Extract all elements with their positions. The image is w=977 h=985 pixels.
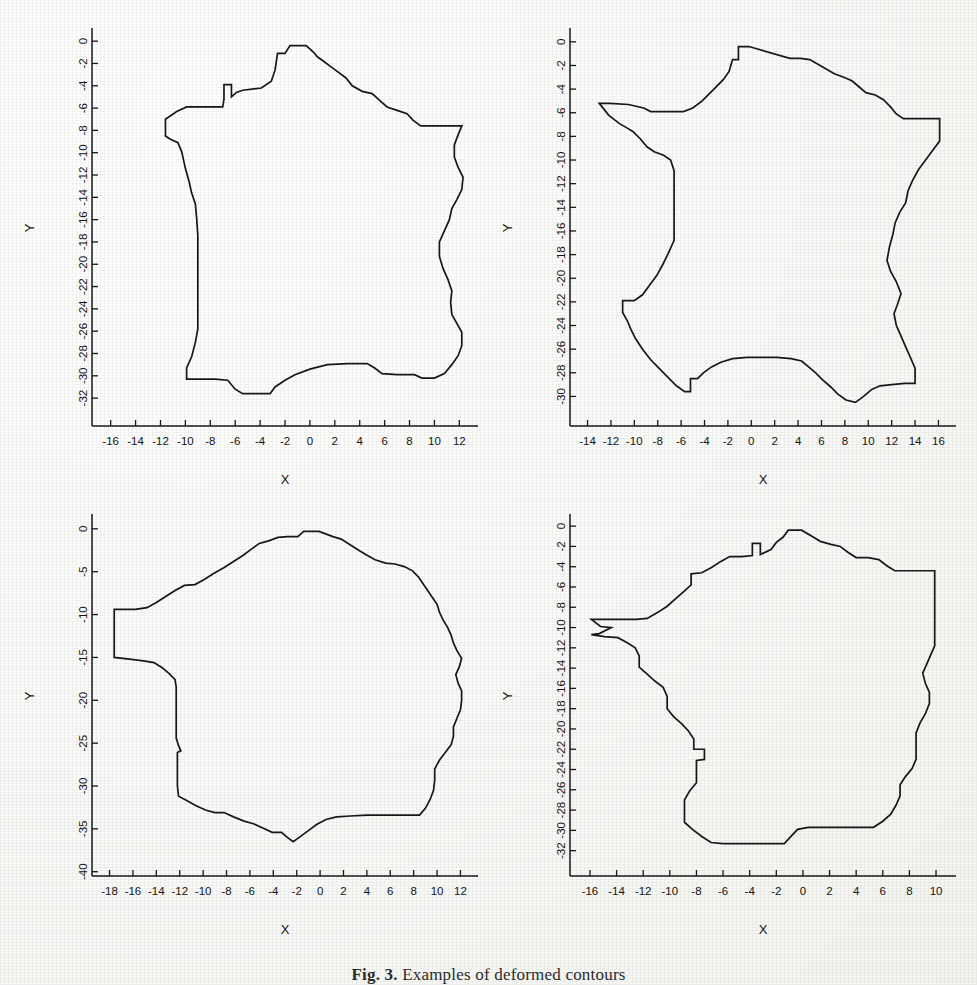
- y-tick-label: -16: [555, 223, 567, 240]
- y-tick-label: -8: [77, 125, 89, 135]
- x-tick-label: 2: [332, 435, 338, 447]
- x-tick-label: 8: [842, 435, 848, 447]
- y-tick-label: -18: [555, 246, 567, 263]
- x-tick-label: -14: [127, 435, 144, 447]
- axes: [570, 514, 956, 876]
- x-tick-label: -4: [699, 435, 710, 447]
- y-tick-label: -32: [77, 390, 89, 407]
- y-tick-label: -10: [555, 619, 567, 636]
- chart-panel-top-right: -14-12-10-8-6-4-202468101214160-2-4-6-8-…: [496, 14, 966, 498]
- y-tick-label: 0: [77, 526, 89, 532]
- y-tick-label: -8: [555, 131, 567, 141]
- y-axis-title: Y: [22, 223, 37, 232]
- x-axis-title: X: [759, 472, 768, 487]
- x-tick-label: -6: [245, 885, 255, 897]
- y-axis-ticks: 0-2-4-6-8-10-12-14-16-18-20-22-24-26-28-…: [555, 39, 576, 405]
- x-tick-label: -16: [102, 435, 119, 447]
- x-tick-label: 10: [862, 435, 875, 447]
- chart-panel-top-left: -16-14-12-10-8-6-4-20246810120-2-4-6-8-1…: [18, 14, 488, 498]
- figure-caption-label: Fig. 3.: [351, 965, 397, 984]
- x-tick-label: 4: [853, 885, 860, 897]
- x-axis-ticks: -18-16-14-12-10-8-6-4-2024681012: [101, 870, 467, 897]
- chart-panel-bottom-right: -16-14-12-10-8-6-4-202468100-2-4-6-8-10-…: [496, 500, 966, 948]
- y-tick-label: -22: [555, 294, 567, 311]
- x-tick-label: -12: [635, 885, 652, 897]
- x-tick-label: -2: [723, 435, 733, 447]
- y-tick-label: -26: [555, 341, 567, 358]
- y-tick-label: -14: [555, 198, 567, 215]
- x-tick-label: -8: [221, 885, 231, 897]
- x-tick-label: 8: [410, 885, 416, 897]
- y-tick-label: -12: [555, 175, 567, 192]
- y-tick-label: -10: [77, 144, 89, 161]
- x-tick-label: 4: [364, 885, 371, 897]
- y-tick-label: -14: [77, 188, 89, 205]
- y-tick-label: -18: [77, 234, 89, 251]
- x-tick-label: -10: [195, 885, 212, 897]
- y-tick-label: -14: [555, 659, 567, 676]
- axes: [92, 28, 478, 426]
- x-tick-label: -14: [608, 885, 625, 897]
- x-tick-label: -8: [205, 435, 215, 447]
- y-tick-label: -10: [555, 152, 567, 169]
- x-axis-ticks: -16-14-12-10-8-6-4-2024681012: [102, 420, 465, 447]
- y-tick-label: -16: [77, 211, 89, 228]
- plot-panel-bottom-right: -16-14-12-10-8-6-4-202468100-2-4-6-8-10-…: [496, 500, 966, 948]
- x-tick-label: 4: [357, 435, 364, 447]
- y-tick-label: -12: [555, 640, 567, 657]
- y-tick-label: -16: [555, 680, 567, 697]
- y-axis-ticks: 0-2-4-6-8-10-12-14-16-18-20-22-24-26-28-…: [77, 38, 98, 406]
- x-tick-label: -2: [280, 435, 290, 447]
- y-tick-label: -24: [555, 761, 567, 778]
- x-tick-label: 12: [454, 885, 467, 897]
- axes: [92, 514, 478, 876]
- x-tick-label: 8: [406, 435, 412, 447]
- contour-outline: [114, 531, 461, 841]
- y-tick-label: -15: [77, 649, 89, 666]
- x-tick-label: -6: [718, 885, 728, 897]
- y-tick-label: -20: [555, 270, 567, 287]
- contour-outline: [591, 530, 934, 843]
- y-tick-label: -28: [555, 364, 567, 381]
- x-tick-label: 4: [795, 435, 802, 447]
- y-tick-label: -20: [555, 721, 567, 738]
- y-tick-label: 0: [555, 523, 567, 529]
- x-axis-ticks: -16-14-12-10-8-6-4-20246810: [582, 870, 943, 897]
- y-axis-ticks: 0-2-4-6-8-10-12-14-16-18-20-22-24-26-28-…: [555, 523, 576, 859]
- x-tick-label: -2: [292, 885, 302, 897]
- x-tick-label: -6: [676, 435, 686, 447]
- contour-outline: [165, 46, 463, 394]
- y-axis-ticks: 0-5-10-15-20-25-30-35-40: [77, 526, 98, 880]
- x-tick-label: -10: [626, 435, 643, 447]
- y-tick-label: -12: [77, 167, 89, 184]
- x-axis-title: X: [281, 472, 290, 487]
- x-axis-title: X: [281, 922, 290, 937]
- y-tick-label: -2: [555, 541, 567, 551]
- x-tick-label: -10: [662, 885, 679, 897]
- y-tick-label: -30: [77, 778, 89, 795]
- y-tick-label: -18: [555, 700, 567, 717]
- y-tick-label: -5: [77, 567, 89, 577]
- x-axis-ticks: -14-12-10-8-6-4-20246810121416: [579, 420, 945, 447]
- x-tick-label: -18: [101, 885, 118, 897]
- y-tick-label: -20: [77, 256, 89, 273]
- x-tick-label: -16: [582, 885, 599, 897]
- x-tick-label: 6: [818, 435, 824, 447]
- x-axis-title: X: [759, 922, 768, 937]
- x-tick-label: 0: [317, 885, 323, 897]
- x-tick-label: 10: [930, 885, 943, 897]
- x-tick-label: 16: [932, 435, 945, 447]
- y-tick-label: -24: [555, 317, 567, 334]
- contour-outline: [599, 47, 939, 403]
- y-tick-label: -26: [77, 323, 89, 340]
- x-tick-label: -2: [771, 885, 781, 897]
- x-tick-label: 12: [453, 435, 466, 447]
- x-tick-label: 10: [431, 885, 444, 897]
- y-tick-label: -32: [555, 842, 567, 859]
- y-tick-label: -24: [77, 300, 89, 317]
- y-tick-label: -4: [555, 83, 567, 94]
- x-tick-label: 8: [906, 885, 912, 897]
- y-tick-label: -25: [77, 735, 89, 752]
- x-tick-label: 2: [826, 885, 832, 897]
- y-tick-label: -30: [555, 388, 567, 405]
